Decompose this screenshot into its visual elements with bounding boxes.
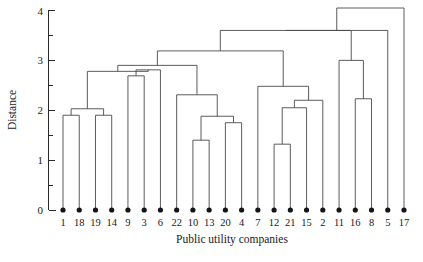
- y-axis-ticks: [49, 11, 55, 211]
- leaf-markers: [60, 207, 406, 212]
- dendrogram-link: [258, 86, 309, 210]
- leaf-marker: [271, 207, 276, 212]
- y-axis: 01234 Distance: [6, 5, 55, 217]
- leaf-label: 13: [204, 217, 215, 228]
- leaf-marker: [288, 207, 293, 212]
- leaf-marker: [174, 207, 179, 212]
- dendrogram-link: [274, 144, 290, 210]
- leaf-marker: [320, 207, 325, 212]
- y-tick-label: 1: [38, 154, 44, 166]
- dendrogram-plot: 01234 Distance Public utility companies …: [0, 0, 423, 262]
- dendrogram-link: [220, 30, 351, 60]
- leaf-label: 17: [399, 217, 410, 228]
- dendrogram-link: [225, 123, 241, 210]
- leaf-label: 20: [220, 217, 231, 228]
- leaf-marker: [60, 207, 65, 212]
- dendrogram-link: [286, 30, 388, 210]
- dendrogram-link: [355, 99, 371, 210]
- leaf-labels: 11819149362210132047122115211168517: [60, 217, 409, 228]
- dendrogram-link: [128, 76, 144, 210]
- leaf-label: 11: [334, 217, 344, 228]
- leaf-marker: [125, 207, 130, 212]
- dendrogram-links: [63, 8, 404, 210]
- leaf-marker: [223, 207, 228, 212]
- leaf-label: 5: [385, 217, 390, 228]
- x-axis-title: Public utility companies: [176, 233, 288, 246]
- leaf-marker: [207, 207, 212, 212]
- leaf-marker: [93, 207, 98, 212]
- leaf-label: 1: [60, 217, 65, 228]
- leaf-marker: [304, 207, 309, 212]
- leaf-label: 9: [125, 217, 130, 228]
- leaf-label: 19: [90, 217, 101, 228]
- dendrogram-link: [63, 115, 79, 210]
- dendrogram-link: [136, 70, 160, 210]
- leaf-marker: [336, 207, 341, 212]
- x-axis: Public utility companies: [49, 211, 289, 247]
- dendrogram-link: [177, 95, 218, 210]
- y-axis-title: Distance: [6, 90, 18, 130]
- dendrogram-figure: 01234 Distance Public utility companies …: [0, 0, 423, 262]
- y-tick-label: 3: [38, 54, 44, 66]
- leaf-marker: [255, 207, 260, 212]
- leaf-marker: [77, 207, 82, 212]
- y-axis-tick-labels: 01234: [38, 5, 44, 217]
- dendrogram-link: [294, 100, 322, 210]
- dendrogram-link: [201, 116, 233, 140]
- leaf-label: 6: [158, 217, 163, 228]
- y-tick-label: 4: [38, 5, 44, 17]
- leaf-marker: [353, 207, 358, 212]
- leaf-label: 3: [142, 217, 147, 228]
- dendrogram-link: [337, 8, 404, 210]
- leaf-marker: [401, 207, 406, 212]
- leaf-marker: [142, 207, 147, 212]
- leaf-label: 16: [350, 217, 361, 228]
- leaf-label: 7: [255, 217, 260, 228]
- leaf-label: 4: [239, 217, 245, 228]
- leaf-label: 21: [285, 217, 296, 228]
- leaf-marker: [239, 207, 244, 212]
- leaf-label: 12: [269, 217, 280, 228]
- dendrogram-link: [157, 51, 283, 86]
- leaf-label: 2: [320, 217, 325, 228]
- dendrogram-link: [193, 140, 209, 210]
- leaf-label: 18: [74, 217, 85, 228]
- dendrogram-link: [282, 108, 306, 210]
- y-tick-label: 2: [38, 104, 44, 116]
- leaf-label: 15: [301, 217, 312, 228]
- leaf-label: 14: [106, 217, 117, 228]
- leaf-label: 8: [369, 217, 374, 228]
- dendrogram-link: [95, 115, 111, 210]
- leaf-marker: [109, 207, 114, 212]
- leaf-label: 22: [171, 217, 182, 228]
- dendrogram-link: [71, 109, 103, 115]
- dendrogram-link: [339, 60, 363, 210]
- leaf-marker: [385, 207, 390, 212]
- leaf-marker: [190, 207, 195, 212]
- y-tick-label: 0: [38, 204, 44, 216]
- leaf-label: 10: [188, 217, 199, 228]
- leaf-marker: [158, 207, 163, 212]
- leaf-marker: [369, 207, 374, 212]
